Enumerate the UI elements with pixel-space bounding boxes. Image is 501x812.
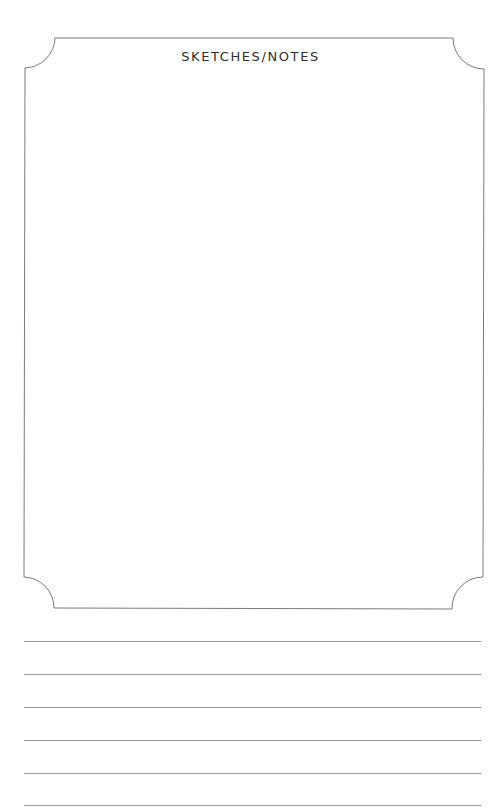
notebook-page: SKETCHES/NOTES xyxy=(0,0,501,812)
ruled-line[interactable] xyxy=(24,641,481,642)
ruled-line[interactable] xyxy=(24,740,481,741)
sketch-area[interactable] xyxy=(30,72,478,572)
ruled-line[interactable] xyxy=(24,707,481,708)
sketch-box-title: SKETCHES/NOTES xyxy=(0,49,501,64)
ruled-line[interactable] xyxy=(24,674,481,675)
ruled-line[interactable] xyxy=(24,805,481,806)
ruled-line[interactable] xyxy=(24,773,481,774)
